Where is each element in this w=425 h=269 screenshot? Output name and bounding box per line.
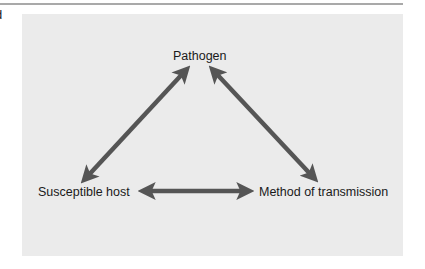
- node-label-method-of-transmission: Method of transmission: [259, 185, 388, 199]
- arrow-pathogen-method-of-transmission: [213, 70, 314, 178]
- node-label-susceptible-host: Susceptible host: [38, 185, 130, 199]
- arrow-pathogen-susceptible-host: [85, 70, 186, 179]
- node-label-pathogen: Pathogen: [173, 49, 227, 63]
- diagram-arrows: [0, 0, 425, 269]
